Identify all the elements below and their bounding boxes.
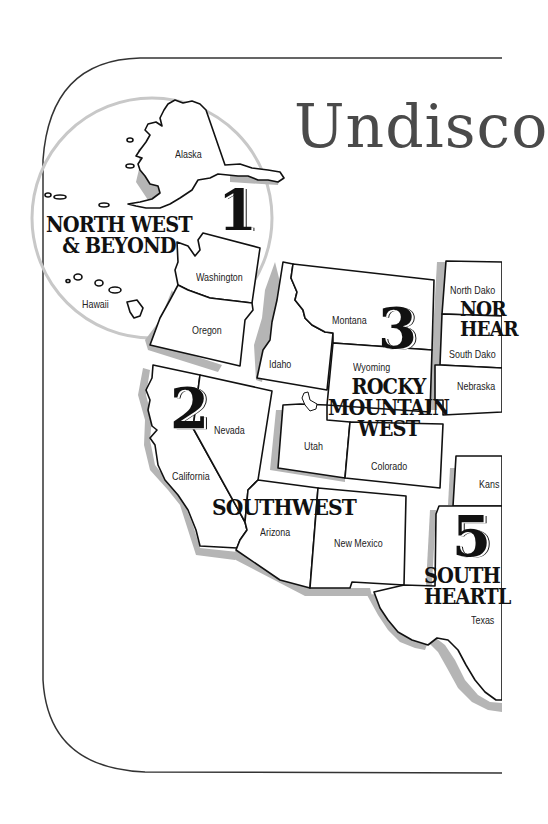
state-label-colorado: Colorado	[371, 460, 407, 472]
region-3-line-3: WEST	[328, 418, 449, 439]
state-label-texas: Texas	[471, 614, 494, 626]
region-4-line-2: HEAR	[460, 319, 518, 339]
region-name-2: SOUTHWEST	[212, 496, 356, 518]
region-number-1: 1	[218, 182, 257, 238]
state-label-alaska: Alaska	[175, 148, 202, 160]
region-name-1: NORTH WEST & BEYOND	[46, 214, 192, 256]
state-label-north-dakota: North Dako	[450, 284, 495, 296]
state-label-utah: Utah	[304, 440, 323, 452]
state-label-nebraska: Nebraska	[457, 380, 495, 392]
state-label-wyoming: Wyoming	[353, 361, 390, 373]
page-title: Undisco	[294, 96, 548, 156]
region-2-line-1: SOUTHWEST	[212, 496, 356, 518]
state-label-hawaii: Hawaii	[82, 298, 109, 310]
region-name-3: ROCKY MOUNTAIN WEST	[328, 376, 449, 439]
state-label-washington: Washington	[196, 271, 243, 283]
state-label-south-dakota: South Dako	[449, 348, 496, 360]
state-label-california: California	[172, 470, 210, 482]
region-number-2: 2	[170, 380, 209, 436]
region-5-line-2: HEARTL	[424, 586, 511, 607]
region-name-4: NOR HEAR	[460, 299, 518, 339]
region-1-line-2: & BEYOND	[46, 235, 192, 256]
region-name-5: SOUTH HEARTL	[424, 565, 511, 607]
region-number-5: 5	[452, 508, 491, 564]
state-label-new-mexico: New Mexico	[334, 537, 383, 549]
state-label-idaho: Idaho	[269, 358, 291, 370]
state-label-kansas: Kans	[479, 478, 499, 490]
region-number-3: 3	[378, 300, 417, 356]
state-label-nevada: Nevada	[214, 424, 245, 436]
state-label-montana: Montana	[332, 314, 367, 326]
state-label-oregon: Oregon	[192, 324, 222, 336]
state-label-arizona: Arizona	[260, 526, 290, 538]
